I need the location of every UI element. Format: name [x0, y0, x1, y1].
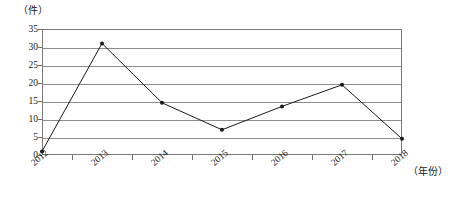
y-axis-tick-mark [38, 101, 42, 102]
y-axis-tick-mark [38, 137, 42, 138]
series-markers [40, 41, 404, 153]
data-point [280, 104, 284, 108]
data-series-layer [0, 0, 455, 202]
data-point [400, 137, 404, 141]
x-axis-unit-label: （年份） [408, 166, 448, 178]
line-chart: （件） 05101520253035 （年份） 2012201320142015… [0, 0, 455, 202]
x-axis-tick-mark [132, 155, 133, 160]
y-axis-tick-mark [38, 65, 42, 66]
y-axis-tick-mark [38, 29, 42, 30]
x-axis-tick-mark [192, 155, 193, 160]
data-point [220, 128, 224, 132]
data-point [160, 101, 164, 105]
x-axis-tick-mark [312, 155, 313, 160]
series-line [42, 43, 402, 151]
y-axis-tick-mark [38, 119, 42, 120]
x-axis-tick-mark [252, 155, 253, 160]
data-point [340, 83, 344, 87]
x-axis-tick-mark [72, 155, 73, 160]
y-axis-tick-mark [38, 83, 42, 84]
x-axis-tick-mark [372, 155, 373, 160]
y-axis-tick-mark [38, 47, 42, 48]
data-point [100, 41, 104, 45]
